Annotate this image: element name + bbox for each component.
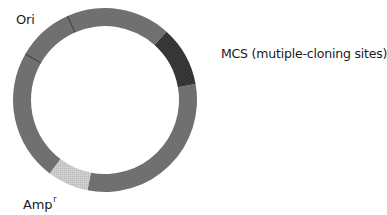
mcs-label-text: MCS (mutiple-cloning sites) [221, 46, 387, 61]
amp-label-superscript: r [53, 195, 56, 204]
amp-label-text: Amp [23, 197, 52, 212]
segment-backbone-top [68, 8, 167, 45]
segment-mcs [155, 32, 196, 88]
ori-label: Ori [16, 13, 35, 26]
ori-label-text: Ori [16, 12, 35, 27]
plasmid-ring [13, 8, 197, 192]
mcs-label: MCS (mutiple-cloning sites) [221, 48, 387, 61]
amp-resistance-label: Ampr [23, 198, 56, 211]
segment-backbone-main [87, 84, 197, 192]
segment-backbone-left [13, 54, 60, 173]
